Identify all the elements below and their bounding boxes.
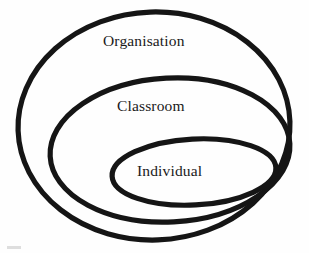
label-classroom: Classroom xyxy=(117,98,185,114)
label-individual: Individual xyxy=(137,163,202,179)
label-organisation: Organisation xyxy=(103,33,185,49)
diagram-canvas: Organisation Classroom Individual xyxy=(0,0,309,253)
scan-artifact-mark xyxy=(7,246,21,249)
